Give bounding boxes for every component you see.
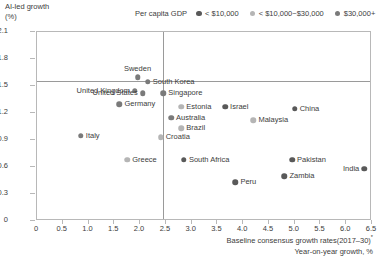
x-tick-mark: [345, 220, 346, 224]
legend-label-0: < $10,000: [205, 9, 239, 18]
x-tick-label: 0: [25, 224, 47, 233]
data-point-marker[interactable]: [78, 133, 84, 139]
data-point-marker[interactable]: [145, 79, 151, 85]
data-point-marker[interactable]: [117, 101, 123, 107]
y-axis-title-unit: (%): [5, 12, 49, 22]
legend-swatch-icon-1: [250, 11, 256, 17]
legend-title: Per capita GDP: [135, 9, 187, 18]
data-point-label: Malaysia: [258, 115, 288, 124]
data-point-marker[interactable]: [168, 115, 174, 121]
legend-item-2[interactable]: $30,000+: [335, 9, 376, 18]
y-tick-mark: [30, 166, 35, 167]
x-tick-mark: [139, 220, 140, 224]
y-tick-label: 0.9: [0, 134, 8, 143]
legend-label-2: $30,000+: [344, 9, 376, 18]
reference-line-vertical: [163, 32, 164, 219]
y-tick-label: 2.1: [0, 26, 8, 35]
data-point-marker[interactable]: [282, 173, 288, 179]
x-tick-label: 3.5: [205, 224, 227, 233]
data-point-marker[interactable]: [158, 135, 164, 141]
legend-label-1: < $10,000~$30,000: [259, 9, 324, 18]
x-tick-mark: [319, 220, 320, 224]
data-point-marker[interactable]: [140, 90, 146, 96]
x-tick-label: 2.0: [128, 224, 150, 233]
data-point-label: Germany: [124, 99, 155, 108]
data-point-marker[interactable]: [362, 166, 368, 172]
y-tick-label: 1.8: [0, 53, 8, 62]
y-axis-title-line1: AI-led growth: [5, 2, 49, 12]
x-tick-label: 3.0: [180, 224, 202, 233]
data-point-marker[interactable]: [161, 90, 167, 96]
data-point-label: Italy: [86, 131, 100, 140]
data-point-label: Sweden: [124, 64, 151, 73]
x-tick-label: 1.5: [102, 224, 124, 233]
data-point-marker[interactable]: [289, 157, 295, 163]
x-axis-title-line1: Baseline consensus growth rates(2017–30)…: [227, 232, 373, 246]
y-tick-label: 0.6: [0, 161, 8, 170]
x-tick-label: 2.5: [154, 224, 176, 233]
scatter-chart: AI-led growth (%) Per capita GDP < $10,0…: [0, 0, 382, 265]
legend-swatch-icon-2: [335, 11, 341, 17]
data-point-label: Singapore: [168, 88, 202, 97]
y-tick-label: 1.5: [0, 80, 8, 89]
reference-line-horizontal: [37, 81, 370, 82]
x-tick-mark: [62, 220, 63, 224]
data-point-label: South Africa: [189, 155, 229, 164]
y-tick-label: 0.3: [0, 188, 8, 197]
data-point-marker[interactable]: [233, 180, 239, 186]
legend: Per capita GDP < $10,000 < $10,000~$30,0…: [135, 9, 382, 18]
y-tick-label: 1.2: [0, 107, 8, 116]
y-tick-mark: [30, 31, 35, 32]
legend-swatch-icon-0: [196, 11, 202, 17]
data-point-label: Croatia: [166, 132, 190, 141]
x-tick-mark: [88, 220, 89, 224]
x-axis-title-line2: Year-on-year growth, %: [227, 246, 373, 257]
y-axis-title: AI-led growth (%): [5, 2, 49, 22]
x-tick-mark: [113, 220, 114, 224]
legend-item-0[interactable]: < $10,000: [196, 9, 239, 18]
data-point-label: Israel: [230, 102, 248, 111]
x-tick-mark: [216, 220, 217, 224]
data-point-label: Zambia: [289, 171, 314, 180]
y-tick-mark: [30, 85, 35, 86]
y-tick-mark: [30, 112, 35, 113]
x-axis-footnote-marker: *: [371, 234, 373, 240]
legend-item-1[interactable]: < $10,000~$30,000: [250, 9, 324, 18]
data-point-marker[interactable]: [181, 157, 187, 163]
x-tick-mark: [268, 220, 269, 224]
x-tick-mark: [242, 220, 243, 224]
y-tick-mark: [30, 58, 35, 59]
data-point-label: India: [343, 164, 359, 173]
data-point-label: Pakistan: [297, 155, 326, 164]
data-point-marker[interactable]: [179, 104, 185, 110]
data-point-marker[interactable]: [179, 126, 185, 132]
data-point-label: Greece: [132, 155, 157, 164]
data-point-label: South Korea: [153, 77, 195, 86]
data-point-marker[interactable]: [251, 117, 257, 123]
data-point-label: Estonia: [186, 102, 211, 111]
data-point-marker[interactable]: [222, 104, 228, 110]
x-tick-label: 1.0: [77, 224, 99, 233]
x-tick-mark: [371, 220, 372, 224]
data-point-label: Australia: [176, 113, 205, 122]
data-point-label: Peru: [240, 177, 256, 186]
y-tick-mark: [30, 193, 35, 194]
x-axis-title: Baseline consensus growth rates(2017–30)…: [227, 232, 373, 257]
x-tick-label: 0.5: [51, 224, 73, 233]
y-tick-mark: [30, 220, 35, 221]
data-point-marker[interactable]: [292, 106, 298, 112]
x-tick-mark: [294, 220, 295, 224]
plot-area: IsraelChinaSouth AfricaPeruPakistanZambi…: [36, 31, 371, 220]
data-point-label: United States: [93, 88, 138, 97]
data-point-label: China: [300, 104, 320, 113]
data-point-marker[interactable]: [135, 74, 141, 80]
x-tick-mark: [191, 220, 192, 224]
data-point-marker[interactable]: [124, 157, 130, 163]
y-tick-mark: [30, 139, 35, 140]
x-axis-title-text: Baseline consensus growth rates(2017–30): [227, 236, 371, 245]
x-tick-mark: [165, 220, 166, 224]
data-point-label: Brazil: [186, 123, 205, 132]
y-tick-label: 0: [0, 215, 8, 224]
